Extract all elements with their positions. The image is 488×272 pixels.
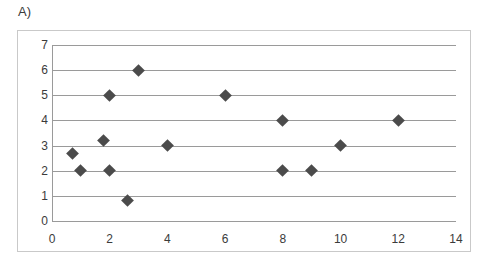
x-axis-tick-labels: 02468101214 (18, 31, 472, 253)
x-tick-label-8: 8 (268, 233, 298, 245)
x-tick-label-0: 0 (37, 233, 67, 245)
chart-frame: 01234567 02468101214 (17, 30, 471, 252)
x-tick-label-12: 12 (383, 233, 413, 245)
panel-label: A) (18, 4, 31, 20)
figure-root: A) 01234567 02468101214 (0, 0, 488, 272)
x-tick-label-2: 2 (95, 233, 125, 245)
x-tick-label-14: 14 (441, 233, 471, 245)
x-tick-label-10: 10 (326, 233, 356, 245)
x-tick-label-4: 4 (152, 233, 182, 245)
x-tick-label-6: 6 (210, 233, 240, 245)
